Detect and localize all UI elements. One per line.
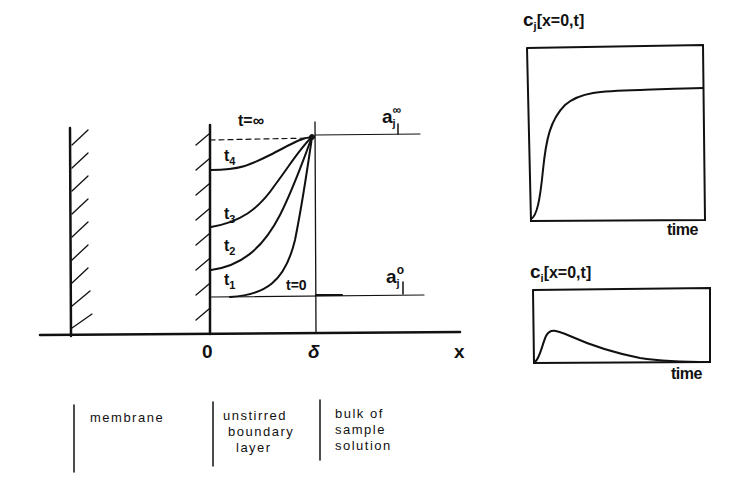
delta-boundary-line xyxy=(315,122,316,332)
a-infinity-level-line xyxy=(315,134,420,135)
label-t1: t1 xyxy=(224,272,235,291)
legend-boundary-line1: unstirred xyxy=(223,408,287,423)
label-t1-sub: 1 xyxy=(229,279,235,291)
legend-bulk-line3: solution xyxy=(335,438,392,453)
chart-cj-frame xyxy=(527,45,705,221)
chart-cj-title-rest: [x=0,t] xyxy=(537,12,585,29)
legend-bulk-line2: sample xyxy=(335,422,386,437)
a-infinity-sub: j xyxy=(393,117,396,129)
a-zero-base: a xyxy=(386,266,397,287)
convergence-point xyxy=(310,135,315,140)
legend-boundary-line3: layer xyxy=(236,440,272,455)
a-zero-sub: j xyxy=(397,277,400,289)
interface-hatching xyxy=(196,134,209,320)
a-zero-sup: o xyxy=(397,263,404,277)
label-t4: t4 xyxy=(224,148,235,167)
t-infinity-dashed-line xyxy=(210,138,312,140)
chart-cj-curve xyxy=(531,88,703,219)
label-a-infinity: aj∞ xyxy=(382,107,404,129)
label-t4-sub: 4 xyxy=(229,155,235,167)
chart-cj-title: cj[x=0,t] xyxy=(523,10,584,32)
label-t-zero: t=0 xyxy=(286,278,307,292)
chart-ci-curve xyxy=(535,331,710,362)
chart-cj-title-base: c xyxy=(523,9,534,30)
legend-boundary-line2: boundary xyxy=(228,424,294,439)
chart-ci-frame xyxy=(533,288,710,363)
a-infinity-base: a xyxy=(382,106,393,127)
label-origin: 0 xyxy=(202,342,213,361)
chart-ci-title-rest: [x=0,t] xyxy=(544,264,592,281)
membrane-outer-wall xyxy=(70,128,71,336)
x-axis xyxy=(40,332,460,335)
label-a-zero: ajo xyxy=(386,267,407,289)
legend-bulk-line1: bulk of xyxy=(335,406,384,421)
label-x-axis: x xyxy=(454,342,465,361)
chart-cj-xlabel: time xyxy=(667,222,698,238)
membrane-hatching xyxy=(72,130,92,328)
legend-membrane: membrane xyxy=(90,410,164,425)
a-infinity-sup: ∞ xyxy=(393,103,402,117)
chart-ci-xlabel: time xyxy=(671,366,702,382)
label-t2-sub: 2 xyxy=(229,245,235,257)
label-t2: t2 xyxy=(224,238,235,257)
label-t-infinity: t=∞ xyxy=(238,113,264,129)
label-delta: δ xyxy=(308,342,320,361)
chart-ci-title: ci[x=0,t] xyxy=(530,262,591,284)
label-t3-sub: 3 xyxy=(229,213,235,225)
label-t3: t3 xyxy=(224,206,235,225)
chart-ci-title-base: c xyxy=(530,261,541,282)
